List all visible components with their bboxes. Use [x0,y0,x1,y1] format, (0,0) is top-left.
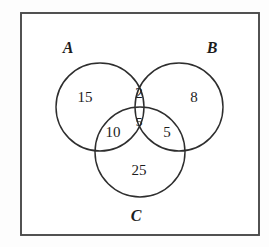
venn-diagram-figure: A B C 15 8 25 2 10 5 5 [0,0,269,247]
region-count-a-and-b-and-c: 5 [136,114,143,129]
set-label-c: C [131,207,142,224]
region-count-a-and-b: 2 [135,85,143,101]
region-count-a-and-c: 10 [106,124,121,140]
region-count-c-only: 25 [132,162,147,178]
set-label-a: A [62,39,74,56]
region-count-b-and-c: 5 [163,124,171,140]
region-count-a-only: 15 [78,89,93,105]
region-count-b-only: 8 [190,89,198,105]
set-label-b: B [206,39,218,56]
venn-diagram-canvas: A B C 15 8 25 2 10 5 5 [0,0,269,247]
